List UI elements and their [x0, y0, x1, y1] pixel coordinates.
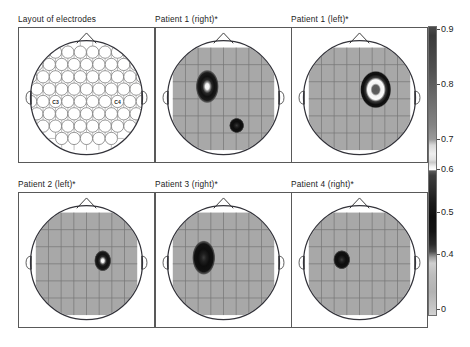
colorbar-tickmark — [437, 139, 440, 140]
panel-patient-1-left — [291, 27, 428, 163]
head-plot-patient-4-right — [292, 193, 427, 327]
colorbar-tick-0-4: 0.4 — [441, 250, 454, 259]
electrode-label-c4: C4 — [114, 99, 121, 105]
colorbar-tickmark — [437, 29, 440, 30]
panel-title-patient-1-left: Patient 1 (left)* — [291, 14, 349, 24]
panel-title-patient-1-right: Patient 1 (right)* — [155, 14, 218, 24]
head-plot-patient-2-left — [19, 193, 154, 327]
electrode-label-c3: C3 — [52, 99, 59, 105]
head-plot-patient-3-right — [156, 193, 291, 327]
colorbar-tick-0-9: 0.9 — [441, 25, 454, 34]
panel-title-layout-of-electrodes: Layout of electrodes — [18, 14, 96, 24]
panel-title-patient-4-right: Patient 4 (right)* — [291, 179, 354, 189]
colorbar: 0.90.80.70.60.50.40 — [428, 26, 470, 316]
colorbar-gradient — [428, 26, 437, 316]
colorbar-tick-0-5: 0.5 — [441, 208, 454, 217]
colorbar-tick-0: 0 — [441, 305, 446, 314]
panel-patient-1-right — [155, 27, 292, 163]
head-plot-patient-1-left — [292, 28, 427, 162]
colorbar-tickmark — [437, 309, 440, 310]
head-plot-layout-of-electrodes: C3C4 — [19, 28, 154, 162]
colorbar-tickmark — [437, 169, 440, 170]
colorbar-tick-0-6: 0.6 — [441, 165, 454, 174]
panel-title-patient-2-left: Patient 2 (left)* — [18, 179, 76, 189]
colorbar-tickmark — [437, 212, 440, 213]
panel-patient-2-left — [18, 192, 155, 328]
panel-layout-of-electrodes: C3C4 — [18, 27, 155, 163]
head-plot-patient-1-right — [156, 28, 291, 162]
colorbar-tickmark — [437, 254, 440, 255]
colorbar-tickmark — [437, 84, 440, 85]
colorbar-tick-0-8: 0.8 — [441, 80, 454, 89]
panel-title-patient-3-right: Patient 3 (right)* — [155, 179, 218, 189]
panel-patient-4-right — [291, 192, 428, 328]
colorbar-tick-0-7: 0.7 — [441, 135, 454, 144]
figure-canvas: Layout of electrodesC3C4Patient 1 (right… — [0, 0, 470, 347]
panel-patient-3-right — [155, 192, 292, 328]
